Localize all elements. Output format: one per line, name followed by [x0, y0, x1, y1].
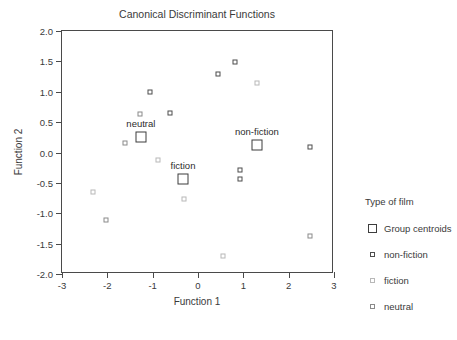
legend-item: non-fiction [365, 245, 457, 264]
legend-item-label: non-fiction [384, 249, 428, 260]
legend-title: Type of film [365, 196, 457, 207]
centroid-marker [135, 131, 146, 142]
data-point-nonfiction [237, 176, 242, 181]
x-axis-title: Function 1 [61, 296, 333, 307]
y-axis-tick [56, 61, 62, 62]
y-axis-title: Function 2 [13, 92, 24, 212]
data-point-fiction [90, 189, 95, 194]
y-axis-tick [56, 122, 62, 123]
x-axis-tick-label: 0 [195, 280, 200, 291]
data-point-nonfiction [167, 111, 172, 116]
legend-item-label: neutral [384, 301, 413, 312]
data-point-nonfiction [237, 167, 242, 172]
legend-item-label: fiction [384, 275, 409, 286]
y-axis-tick [56, 244, 62, 245]
centroid-marker [178, 174, 189, 185]
legend-swatch-icon [365, 304, 379, 309]
plot-area: 2.01.51.00.50.0-0.5-1.0-1.5-2.0-3-2-1012… [61, 30, 333, 273]
x-axis-tick [153, 272, 154, 278]
data-point-neutral [104, 217, 109, 222]
y-axis-tick-label: 0.5 [40, 117, 53, 128]
legend-items: Group centroidsnon-fictionfictionneutral [365, 219, 457, 316]
x-axis-tick-label: 2 [286, 280, 291, 291]
data-point-nonfiction [216, 71, 221, 76]
legend-swatch-icon [365, 252, 379, 257]
y-axis-tick-label: 1.5 [40, 56, 53, 67]
data-point-fiction [220, 253, 225, 258]
legend: Type of film Group centroidsnon-fictionf… [365, 196, 457, 323]
y-axis-tick-label: 2.0 [40, 26, 53, 37]
legend-item-label: Group centroids [384, 223, 452, 234]
chart-title: Canonical Discriminant Functions [61, 8, 333, 20]
x-axis-tick-label: -3 [58, 280, 66, 291]
data-point-neutral [137, 112, 142, 117]
y-axis-tick-label: -0.5 [37, 177, 53, 188]
legend-swatch-icon [365, 224, 379, 233]
y-axis-tick [56, 92, 62, 93]
centroid-marker [251, 139, 262, 150]
x-axis-tick [334, 272, 335, 278]
x-axis-tick-label: -2 [103, 280, 111, 291]
data-point-fiction [156, 157, 161, 162]
centroid-label: neutral [126, 118, 155, 129]
legend-item: Group centroids [365, 219, 457, 238]
x-axis-tick [243, 272, 244, 278]
legend-item: neutral [365, 297, 457, 316]
data-point-nonfiction [308, 145, 313, 150]
y-axis-tick-label: 1.0 [40, 86, 53, 97]
y-axis-tick [56, 31, 62, 32]
x-axis-tick-label: -1 [148, 280, 156, 291]
data-point-neutral [122, 140, 127, 145]
chart-container: Canonical Discriminant Functions 2.01.51… [0, 0, 457, 340]
y-axis-tick-label: 0.0 [40, 147, 53, 158]
y-axis-tick [56, 183, 62, 184]
y-axis-tick-label: -1.0 [37, 208, 53, 219]
data-point-fiction [182, 197, 187, 202]
data-point-nonfiction [148, 90, 153, 95]
y-axis-tick [56, 213, 62, 214]
y-axis-tick [56, 153, 62, 154]
centroid-label: fiction [171, 160, 196, 171]
legend-swatch-icon [365, 278, 379, 283]
y-axis-tick-label: -2.0 [37, 269, 53, 280]
centroid-label: non-fiction [235, 126, 279, 137]
x-axis-tick-label: 1 [241, 280, 246, 291]
x-axis-tick [289, 272, 290, 278]
data-point-neutral [308, 233, 313, 238]
data-point-fiction [254, 80, 259, 85]
x-axis-tick [107, 272, 108, 278]
x-axis-tick-label: 3 [331, 280, 336, 291]
data-point-nonfiction [233, 59, 238, 64]
y-axis-tick-label: -1.5 [37, 238, 53, 249]
legend-item: fiction [365, 271, 457, 290]
x-axis-tick [198, 272, 199, 278]
x-axis-tick [62, 272, 63, 278]
